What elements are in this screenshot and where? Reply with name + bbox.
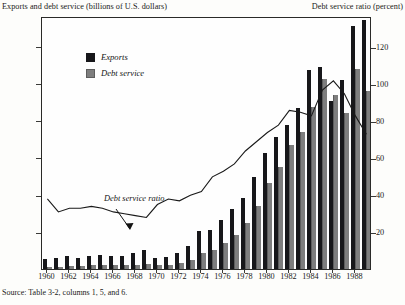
legend-label: Exports	[101, 52, 128, 62]
right-axis-tick-label: 20	[376, 228, 384, 237]
x-axis-tick-mark	[112, 270, 113, 273]
annotation-label: Debt service ratio	[104, 194, 164, 203]
x-axis-tick-mark	[354, 270, 355, 273]
x-axis-tick-mark	[68, 270, 69, 273]
right-axis-tick-mark	[371, 196, 376, 197]
legend-swatch-icon-exports	[86, 53, 95, 62]
x-axis-tick-label: 1988	[346, 272, 362, 281]
plot-frame: ExportsDebt service Debt service ratio	[41, 17, 371, 270]
right-axis-tick-label: 100	[376, 80, 388, 89]
x-axis-labels: 1960196219641966196819701972197419761978…	[0, 272, 405, 286]
x-axis-tick-mark	[288, 270, 289, 273]
x-axis-tick-label: 1972	[170, 272, 186, 281]
x-axis-tick-mark	[200, 270, 201, 273]
right-axis-tick-label: 60	[376, 154, 384, 163]
right-axis-tick-mark	[371, 85, 376, 86]
x-axis-tick-label: 1964	[82, 272, 98, 281]
x-axis-tick-label: 1960	[38, 272, 54, 281]
legend-label: Debt service	[101, 68, 144, 78]
right-axis-tick-mark	[371, 122, 376, 123]
chart-legend: ExportsDebt service	[86, 50, 144, 82]
x-axis-tick-mark	[332, 270, 333, 273]
x-axis-tick-label: 1984	[302, 272, 318, 281]
x-axis-tick-label: 1980	[258, 272, 274, 281]
legend-item-exports: Exports	[86, 50, 144, 64]
x-axis-tick-label: 1986	[324, 272, 340, 281]
x-axis-tick-mark	[156, 270, 157, 273]
annotation-arrow-icon	[114, 207, 150, 237]
legend-swatch-icon-debt	[86, 69, 95, 78]
x-axis-tick-label: 1982	[280, 272, 296, 281]
x-axis-tick-mark	[90, 270, 91, 273]
chart-figure: Exports and debt service (billions of U.…	[0, 0, 405, 305]
right-axis-tick-label: 80	[376, 117, 384, 126]
x-axis-tick-mark	[310, 270, 311, 273]
x-axis-tick-label: 1978	[236, 272, 252, 281]
right-axis-tick-mark	[371, 233, 376, 234]
x-axis-tick-label: 1970	[148, 272, 164, 281]
x-axis-tick-label: 1974	[192, 272, 208, 281]
right-axis-tick-mark	[371, 159, 376, 160]
x-axis-tick-label: 1968	[126, 272, 142, 281]
x-axis-tick-mark	[222, 270, 223, 273]
x-axis-tick-label: 1976	[214, 272, 230, 281]
right-axis-tick-label: 40	[376, 191, 384, 200]
legend-item-debt: Debt service	[86, 66, 144, 80]
x-axis-tick-label: 1966	[104, 272, 120, 281]
right-axis-title: Debt service ratio (percent)	[312, 2, 403, 11]
x-axis-tick-mark	[134, 270, 135, 273]
x-axis-tick-mark	[46, 270, 47, 273]
x-axis-tick-label: 1962	[60, 272, 76, 281]
left-axis-title: Exports and debt service (billions of U.…	[2, 2, 167, 11]
ratio-line-path	[47, 81, 366, 218]
right-axis-tick-label: 120	[376, 43, 388, 52]
x-axis-tick-mark	[178, 270, 179, 273]
source-note: Source: Table 3-2, columns 1, 5, and 6.	[2, 288, 127, 297]
annotation-debt-service-ratio: Debt service ratio	[104, 194, 164, 203]
right-axis-tick-mark	[371, 48, 376, 49]
x-axis-tick-mark	[266, 270, 267, 273]
x-axis-tick-mark	[244, 270, 245, 273]
